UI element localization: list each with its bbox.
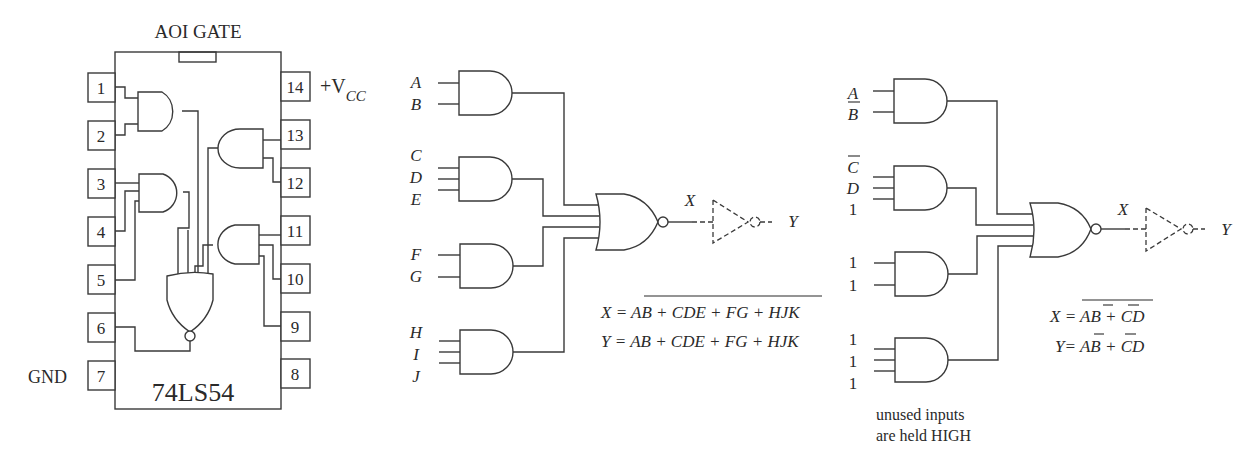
input-h-label: H — [409, 323, 424, 342]
equation-x: X = AB + CDE + FG + HJK — [600, 296, 822, 322]
input-d-label: D — [409, 168, 423, 187]
equation-y: Y= AB + CD — [1055, 334, 1145, 356]
input-b-label: B — [411, 95, 422, 114]
middle-circuit: A B C D E F G H I J — [409, 71, 822, 386]
input-high-label: 1 — [849, 352, 858, 371]
input-high-label: 1 — [849, 374, 858, 393]
input-a-label: A — [410, 73, 422, 92]
and-gate-3 — [874, 236, 1033, 296]
output-y-label: Y — [1221, 220, 1232, 239]
input-d-label: D — [846, 179, 860, 198]
dashed-inverter — [1146, 208, 1205, 251]
svg-text:Y = AB + CDE + FG + HJK: Y = AB + CDE + FG + HJK — [601, 332, 800, 351]
pin-2-label: 2 — [97, 127, 106, 146]
and-gate-2 — [873, 166, 1033, 225]
equation-x: X = AB + CD — [1049, 300, 1153, 326]
input-i-label: I — [412, 345, 420, 364]
input-high-label: 1 — [849, 276, 858, 295]
note-line-1: unused inputs — [876, 406, 964, 424]
output-y-label: Y — [788, 212, 799, 231]
output-x-label: X — [684, 191, 696, 210]
input-high-label: 1 — [849, 253, 858, 272]
ic-title: AOI GATE — [154, 21, 241, 42]
input-f-label: F — [410, 245, 422, 264]
pin-5-label: 5 — [97, 271, 106, 290]
equation-x-rhs: AB + CDE + FG + HJK — [630, 303, 801, 322]
pin-10-label: 10 — [287, 270, 304, 289]
equation-y-lhs: Y = — [601, 332, 630, 351]
svg-text:X = AB + CDE + FG + HJK: X = AB + CDE + FG + HJK — [600, 303, 801, 322]
pin-7-label: 7 — [97, 367, 106, 386]
input-a-label: A — [847, 84, 859, 103]
ic-74ls54: AOI GATE 1 2 3 4 5 6 7 14 13 — [28, 21, 367, 409]
equation-x-lhs: X = — [600, 303, 631, 322]
ic-left-pins: 1 2 3 4 5 6 7 — [88, 73, 115, 390]
output-x-label: X — [1117, 200, 1129, 219]
vcc-label: +VCC — [320, 75, 367, 104]
and-gate-fg — [438, 227, 599, 288]
nor-gate — [596, 194, 713, 250]
aoi-gate-diagram: AOI GATE 1 2 3 4 5 6 7 14 13 — [0, 0, 1259, 469]
pin-4-label: 4 — [97, 223, 106, 242]
pin-11-label: 11 — [287, 222, 303, 241]
input-high-label: 1 — [849, 330, 858, 349]
and-gate-cde — [438, 157, 599, 216]
part-number: 74LS54 — [152, 378, 234, 407]
pin-9-label: 9 — [291, 318, 300, 337]
right-circuit: A B C D 1 1 1 1 1 1 — [846, 79, 1232, 444]
input-c-label: C — [410, 146, 422, 165]
input-high-label: 1 — [849, 200, 858, 219]
pin-8-label: 8 — [291, 365, 300, 384]
input-g-label: G — [410, 267, 422, 286]
ic-nor-gate — [115, 272, 213, 351]
nor-gate — [1030, 203, 1146, 257]
dashed-inverter — [713, 200, 772, 243]
gnd-label: GND — [28, 367, 67, 387]
note-line-2: are held HIGH — [876, 427, 972, 444]
pin-1-label: 1 — [97, 79, 106, 98]
pin-14-label: 14 — [287, 78, 305, 97]
input-b-complement-label: B — [848, 105, 859, 124]
pin-6-label: 6 — [97, 319, 106, 338]
pin-13-label: 13 — [287, 126, 304, 145]
pin-12-label: 12 — [287, 174, 304, 193]
svg-text:X = AB + CD: X = AB + CD — [1049, 307, 1145, 326]
equation-y: Y = AB + CDE + FG + HJK — [601, 332, 800, 351]
input-e-label: E — [410, 190, 422, 209]
equation-y-rhs: AB + CDE + FG + HJK — [629, 332, 800, 351]
ic-and-gate-2 — [115, 174, 189, 280]
svg-text:Y= AB + CD: Y= AB + CD — [1055, 337, 1145, 356]
ic-right-pins: 14 13 12 11 10 9 8 — [281, 72, 310, 388]
input-c-complement-label: C — [847, 158, 859, 177]
input-j-label: J — [412, 367, 421, 386]
pin-3-label: 3 — [97, 175, 106, 194]
ic-notch — [179, 52, 216, 62]
